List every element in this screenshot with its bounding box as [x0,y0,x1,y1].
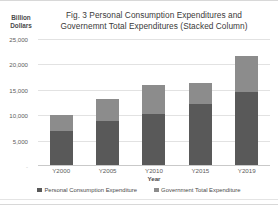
bar-segment[interactable] [96,121,119,166]
legend-swatch-icon [37,188,42,193]
chart-title: Fig. 3 Personal Consumption Expenditures… [42,10,266,31]
y-axis-title: Billion Dollars [4,14,38,30]
bar-stack[interactable] [142,85,165,166]
bar-segment[interactable] [50,115,73,131]
chart-figure: Fig. 3 Personal Consumption Expenditures… [0,0,278,205]
bar-segment[interactable] [189,104,212,166]
y-axis-title-line-2: Dollars [4,22,38,30]
bar-segment[interactable] [235,92,258,166]
bar-group[interactable] [95,39,121,166]
plot-wrapper: 25,00020,00015,00010,0005,000- [38,39,270,166]
legend-label: Government Total Expenditure [161,187,240,193]
y-axis-tick-label: 25,000 [0,36,28,43]
y-axis-tick-label: - [0,163,28,170]
bar-segment[interactable] [96,99,119,121]
y-axis-tick-label: 20,000 [0,61,28,68]
bar-segment[interactable] [189,83,212,103]
legend-item[interactable]: Government Total Expenditure [154,187,240,193]
legend-label: Personal Consumption Expenditure [44,187,137,193]
x-axis-title: Year [38,175,270,182]
chart-legend: Personal Consumption ExpenditureGovernme… [0,187,278,193]
chart-title-line-1: Fig. 3 Personal Consumption Expenditures… [42,10,266,21]
y-axis-tick-label: 10,000 [0,112,28,119]
bar-group[interactable] [187,39,213,166]
chart-title-line-2: Governemnt Total Expenditures (Stacked C… [42,21,266,32]
bar-group[interactable] [141,39,167,166]
legend-swatch-icon [154,188,159,193]
y-axis-tick-label: 15,000 [0,86,28,93]
plot-area: 25,00020,00015,00010,0005,000- [38,39,270,166]
bar-segment[interactable] [142,85,165,114]
bar-stack[interactable] [50,115,73,166]
bar-stack[interactable] [96,99,119,166]
x-axis-line [38,165,270,166]
bar-segment[interactable] [50,131,73,166]
bar-stack[interactable] [189,83,212,166]
bar-segment[interactable] [235,56,258,92]
legend-divider [0,199,278,200]
bar-series-container [38,39,270,166]
y-axis-title-line-1: Billion [4,14,38,22]
legend-item[interactable]: Personal Consumption Expenditure [37,187,137,193]
bar-segment[interactable] [142,114,165,166]
y-axis-tick-label: 5,000 [0,137,28,144]
bar-group[interactable] [48,39,74,166]
bar-group[interactable] [234,39,260,166]
bar-stack[interactable] [235,56,258,166]
